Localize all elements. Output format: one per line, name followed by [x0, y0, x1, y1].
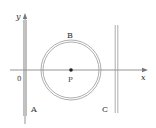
- wire-c: [115, 25, 118, 113]
- loop-b-label: B: [67, 31, 73, 40]
- wire-a-label: A: [30, 105, 37, 114]
- center-point-label: P: [68, 76, 73, 84]
- x-axis-label: x: [141, 73, 146, 82]
- x-axis: [10, 68, 148, 72]
- y-axis-arrow-icon: [23, 13, 27, 19]
- wire-c-label: C: [102, 105, 108, 114]
- center-point: [69, 68, 73, 72]
- y-axis-label: y: [15, 12, 21, 21]
- x-axis-arrow-icon: [142, 68, 148, 72]
- origin-label: 0: [17, 75, 21, 83]
- field-diagram: y x 0 B P A C: [0, 0, 156, 128]
